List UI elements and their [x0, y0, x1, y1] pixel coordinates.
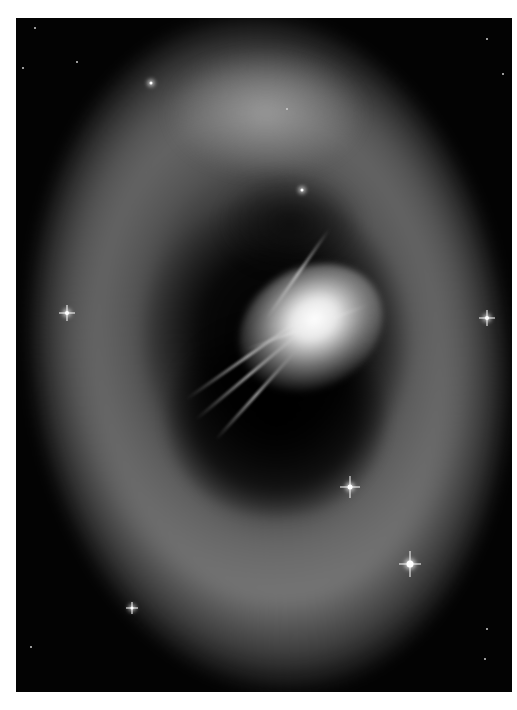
background-star [22, 67, 24, 69]
star-sparkle [59, 305, 75, 321]
star-sparkle [339, 476, 361, 498]
background-star [484, 658, 486, 660]
background-star [502, 73, 504, 75]
star-sparkle [126, 602, 138, 614]
nebula-upper-cavity [216, 168, 366, 278]
star-sparkle [397, 551, 423, 577]
background-star [76, 61, 78, 63]
star-sparkle [479, 310, 495, 326]
star-dot [148, 80, 154, 86]
star-dot [299, 187, 305, 193]
background-star [34, 27, 36, 29]
background-star [30, 646, 32, 648]
nebula-image [16, 18, 512, 692]
background-star [486, 628, 488, 630]
nebula-upper-glow [166, 48, 366, 178]
background-star [486, 38, 488, 40]
background-star [286, 108, 288, 110]
